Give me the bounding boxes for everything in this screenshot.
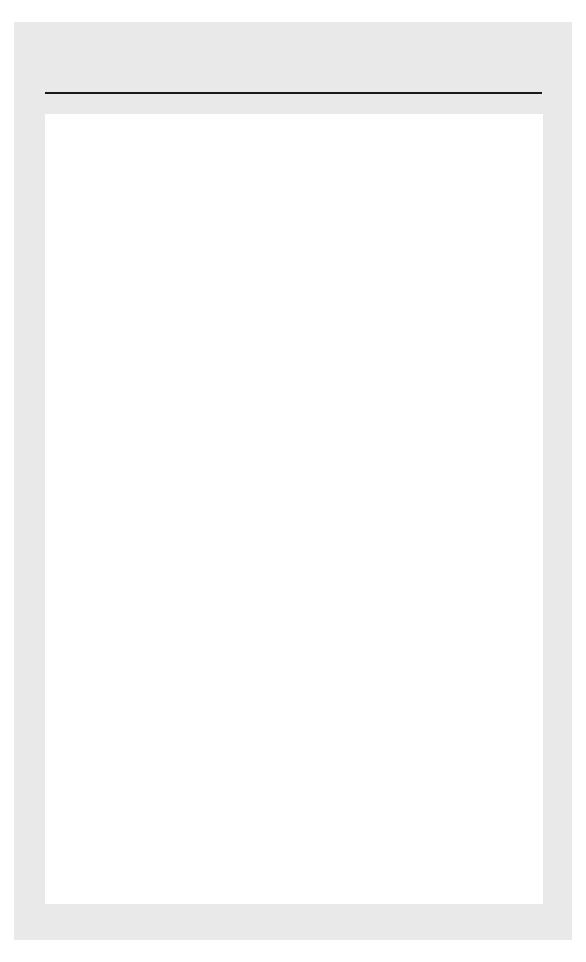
figure-panel xyxy=(14,22,572,940)
title-divider xyxy=(45,92,542,94)
plot-card xyxy=(45,114,543,904)
monetary-conditions-charts xyxy=(45,114,543,904)
